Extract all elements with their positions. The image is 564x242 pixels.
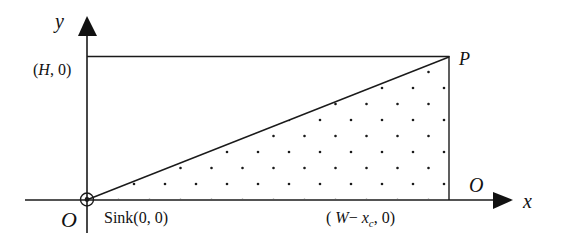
bottom-right-label-suffix: , 0) — [374, 209, 395, 227]
sink-center-dot — [85, 197, 90, 202]
top-left-label: (H, 0) — [33, 61, 71, 79]
x-axis-arrow-icon — [493, 192, 513, 209]
origin-right-label: O — [469, 174, 483, 196]
top-left-label-var: H — [37, 61, 51, 78]
diagram-svg: y x (H, 0) P O O Sink(0, 0) ( W− xc, 0) — [0, 0, 564, 242]
x-axis-label: x — [522, 190, 532, 212]
bottom-right-label: ( W− xc, 0) — [326, 209, 395, 229]
origin-label: O — [61, 207, 77, 232]
sink-label: Sink(0, 0) — [104, 209, 168, 227]
bottom-right-label-x: x — [361, 209, 369, 226]
bottom-right-label-minus: − — [349, 209, 362, 226]
bottom-right-label-prefix: ( — [326, 209, 335, 227]
diagram-canvas: y x (H, 0) P O O Sink(0, 0) ( W− xc, 0) — [0, 0, 564, 242]
y-axis-label: y — [53, 10, 64, 33]
corner-label-p: P — [458, 49, 470, 69]
y-axis-arrow-icon — [78, 16, 97, 36]
